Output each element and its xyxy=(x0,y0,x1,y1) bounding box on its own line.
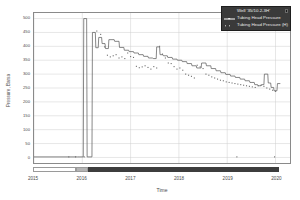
series-tubing-head-pressure-scatter xyxy=(34,13,290,163)
legend-entry-label: Tubing Head Pressure (H) xyxy=(237,23,288,27)
legend-entry-scatter[interactable]: Tubing Head Pressure (H) xyxy=(224,22,288,29)
legend-entry-line[interactable]: Tubing Head Pressure xyxy=(224,15,288,22)
y-axis-label: Pressure, Barsa xyxy=(6,61,11,121)
legend[interactable]: Well '35/10.2-3H' Tubing Head Pressure T… xyxy=(221,6,291,31)
y-axis-tick: 400 xyxy=(23,44,30,48)
timeline-segment[interactable] xyxy=(33,167,76,172)
chart-container: 050100150200250300350400450500 Pressure,… xyxy=(0,0,300,200)
legend-entry-label: Tubing Head Pressure xyxy=(237,16,281,20)
y-axis-tick: 100 xyxy=(23,128,30,132)
x-axis-tick: 2017 xyxy=(125,176,135,181)
x-axis-label: Time xyxy=(33,188,291,193)
legend-title: Well '35/10.2-3H' xyxy=(237,9,270,13)
y-axis-tick: 200 xyxy=(23,100,30,104)
y-axis-tick: 0 xyxy=(28,156,30,160)
y-axis-tick: 500 xyxy=(23,16,30,20)
legend-title-row: Well '35/10.2-3H' xyxy=(224,8,288,15)
timeline-segment[interactable] xyxy=(88,167,279,172)
y-axis-tick: 150 xyxy=(23,114,30,118)
y-axis-tick-labels: 050100150200250300350400450500 xyxy=(0,12,30,164)
legend-dots-marker-icon xyxy=(224,24,235,28)
y-axis-tick: 50 xyxy=(25,142,30,146)
x-axis-tick: 2020 xyxy=(271,176,281,181)
y-axis-tick: 350 xyxy=(23,58,30,62)
x-axis-tick: 2018 xyxy=(174,176,184,181)
legend-line-marker-icon xyxy=(224,17,235,21)
close-icon[interactable] xyxy=(285,9,289,13)
timeline-status-bar[interactable] xyxy=(33,167,291,172)
x-axis-tick: 2016 xyxy=(77,176,87,181)
y-axis-tick: 300 xyxy=(23,72,30,76)
y-axis-tick: 250 xyxy=(23,86,30,90)
y-axis-tick: 450 xyxy=(23,30,30,34)
plot-area xyxy=(33,12,291,164)
x-axis-tick: 2015 xyxy=(28,176,38,181)
timeline-segment[interactable] xyxy=(76,167,88,172)
x-axis-tick-labels: 201520162017201820192020 xyxy=(33,176,291,184)
x-axis-tick: 2019 xyxy=(223,176,233,181)
